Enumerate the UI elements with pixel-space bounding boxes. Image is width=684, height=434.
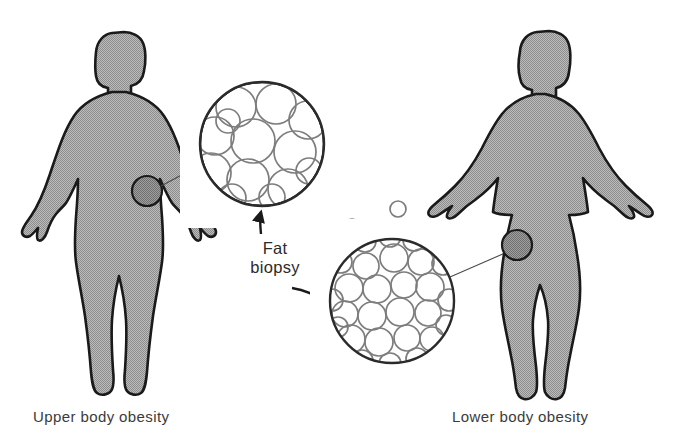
biopsy-marker-upper[interactable]: [132, 176, 162, 206]
figure-canvas: [0, 0, 684, 434]
head-upper: [95, 32, 145, 97]
biopsy-marker-lower[interactable]: [502, 230, 532, 260]
head-lower: [519, 31, 571, 99]
fat-cell-circle-upper: [180, 62, 346, 228]
caption-lower-body-obesity: Lower body obesity: [452, 408, 588, 425]
fat-cell-circle-lower: [310, 201, 474, 383]
fat-biopsy-label-line2: biopsy: [232, 258, 318, 277]
fat-biopsy-label-line1: Fat: [240, 239, 310, 258]
arrow-up-icon: [260, 212, 261, 234]
fat-biopsy-figure: Fat biopsy Upper body obesity Lower body…: [0, 0, 684, 434]
caption-upper-body-obesity: Upper body obesity: [33, 408, 169, 425]
